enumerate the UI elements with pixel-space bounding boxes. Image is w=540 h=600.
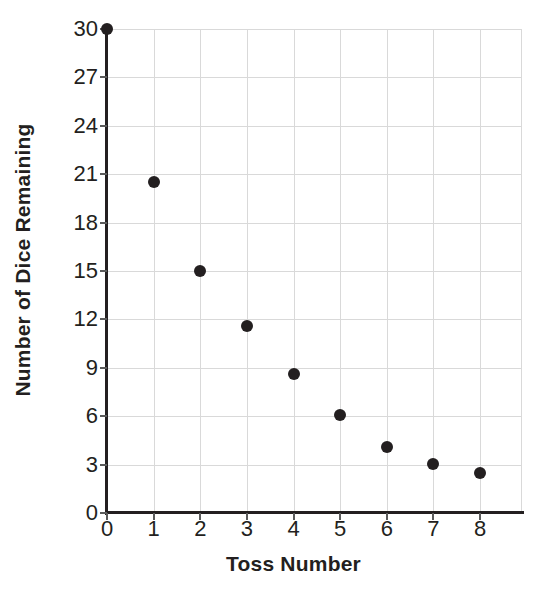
x-axis-tick-label: 3 xyxy=(227,518,267,540)
x-axis-tick-label: 5 xyxy=(320,518,360,540)
y-axis-tick-label: 3 xyxy=(52,454,98,476)
x-axis-title: Toss Number xyxy=(107,552,480,576)
scatter-chart-figure: Number of Dice Remaining 036912151821242… xyxy=(0,0,540,600)
x-axis-tick-label: 7 xyxy=(413,518,453,540)
gridline-horizontal xyxy=(107,77,522,78)
gridline-vertical xyxy=(521,29,522,513)
data-point xyxy=(334,409,346,421)
y-axis-tick xyxy=(100,76,107,78)
gridline-horizontal xyxy=(107,271,522,272)
y-axis-tick xyxy=(100,270,107,272)
data-point xyxy=(381,441,393,453)
x-axis-tick-label: 8 xyxy=(460,518,500,540)
data-point xyxy=(148,176,160,188)
gridline-horizontal xyxy=(107,319,522,320)
data-point xyxy=(474,467,486,479)
data-point xyxy=(241,320,253,332)
gridline-horizontal xyxy=(107,368,522,369)
y-axis-tick-label: 6 xyxy=(52,405,98,427)
y-axis-tick-label: 21 xyxy=(52,163,98,185)
y-axis-tick xyxy=(100,318,107,320)
plot-area xyxy=(107,29,522,513)
gridline-vertical xyxy=(480,29,481,513)
gridline-vertical xyxy=(154,29,155,513)
x-axis-tick-label: 1 xyxy=(134,518,174,540)
y-axis-title-container: Number of Dice Remaining xyxy=(0,0,46,520)
gridline-horizontal xyxy=(107,416,522,417)
x-axis-tick-label: 6 xyxy=(367,518,407,540)
gridline-vertical xyxy=(433,29,434,513)
gridline-vertical xyxy=(340,29,341,513)
y-axis-tick xyxy=(100,464,107,466)
y-axis-tick-label: 12 xyxy=(52,308,98,330)
y-axis-title: Number of Dice Remaining xyxy=(11,123,35,396)
data-point xyxy=(288,368,300,380)
y-axis-tick xyxy=(100,125,107,127)
y-axis-tick-label: 30 xyxy=(52,18,98,40)
gridline-horizontal xyxy=(107,174,522,175)
y-axis-tick-label: 18 xyxy=(52,212,98,234)
gridline-vertical xyxy=(247,29,248,513)
y-axis-tick-labels: 036912151821242730 xyxy=(46,0,98,600)
gridline-horizontal xyxy=(107,29,522,30)
y-axis-tick-label: 27 xyxy=(52,66,98,88)
y-axis-tick-label: 15 xyxy=(52,260,98,282)
gridline-horizontal xyxy=(107,223,522,224)
y-axis-tick xyxy=(100,367,107,369)
y-axis-tick-label: 24 xyxy=(52,115,98,137)
x-axis-tick-label: 4 xyxy=(274,518,314,540)
y-axis-tick xyxy=(100,173,107,175)
gridline-vertical xyxy=(294,29,295,513)
x-axis-tick-label: 0 xyxy=(87,518,127,540)
x-axis-tick-label: 2 xyxy=(180,518,220,540)
data-point xyxy=(101,23,113,35)
y-axis-tick xyxy=(100,415,107,417)
y-axis-tick xyxy=(100,222,107,224)
gridline-horizontal xyxy=(107,126,522,127)
gridline-horizontal xyxy=(107,465,522,466)
y-axis-tick-label: 9 xyxy=(52,357,98,379)
x-axis-line xyxy=(105,511,524,514)
